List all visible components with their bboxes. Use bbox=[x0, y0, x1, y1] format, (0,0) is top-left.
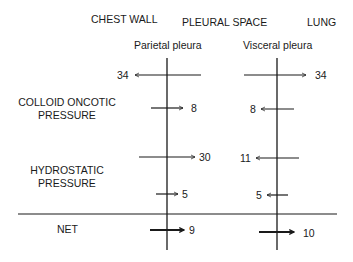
visceral-hydro-value: 11 bbox=[240, 153, 251, 164]
colloid-label-line2: PRESSURE bbox=[10, 110, 124, 121]
parietal-pleura-label: Parietal pleura bbox=[134, 40, 202, 51]
parietal-hydro2-value: 5 bbox=[182, 189, 188, 200]
visceral-hydro2-value: 5 bbox=[256, 190, 262, 201]
pleural-space-header: PLEURAL SPACE bbox=[182, 17, 267, 28]
visceral-net-value: 10 bbox=[303, 228, 315, 239]
colloid-label-line1: COLLOID ONCOTIC bbox=[10, 97, 124, 108]
hydro-label-line2: PRESSURE bbox=[10, 178, 124, 189]
colloid-oncotic-label: COLLOID ONCOTIC PRESSURE bbox=[10, 97, 124, 120]
parietal-top-value: 34 bbox=[117, 70, 129, 81]
parietal-net-value: 9 bbox=[189, 225, 195, 236]
hydro-label-line1: HYDROSTATIC bbox=[10, 165, 124, 176]
hydrostatic-label: HYDROSTATIC PRESSURE bbox=[10, 165, 124, 188]
parietal-colloid-value: 8 bbox=[191, 103, 197, 114]
net-label: NET bbox=[57, 224, 78, 235]
lung-header: LUNG bbox=[307, 17, 336, 28]
visceral-top-value: 34 bbox=[315, 70, 327, 81]
chest-wall-header: CHEST WALL bbox=[91, 14, 158, 25]
visceral-pleura-label: Visceral pleura bbox=[243, 40, 312, 51]
parietal-hydro-value: 30 bbox=[199, 152, 211, 163]
visceral-colloid-value: 8 bbox=[250, 104, 256, 115]
